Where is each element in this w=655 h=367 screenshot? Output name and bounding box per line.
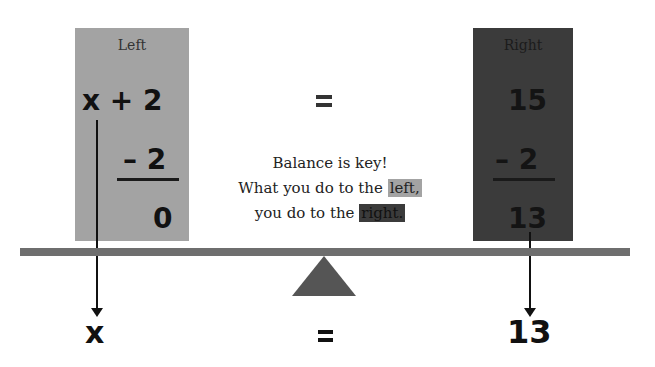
caption-line-3: you do to the right. [215, 201, 445, 226]
highlight-left: left, [388, 179, 422, 197]
balance-caption: Balance is key! What you do to the left,… [215, 151, 445, 226]
left-panel: Left x + 2 – 2 0 [75, 28, 189, 241]
middle-equals-bar-bottom [316, 103, 332, 107]
right-subtract: – 2 [495, 146, 538, 174]
right-sum-rule [493, 178, 555, 181]
left-arrow-line [96, 120, 98, 310]
solution-equals-bar-bottom [318, 338, 333, 342]
right-arrow-line [529, 232, 531, 310]
left-expression: x + 2 [82, 87, 163, 115]
right-panel-title: Right [473, 37, 573, 53]
solution-right: 13 [507, 316, 552, 348]
right-value: 15 [508, 87, 547, 115]
right-result: 13 [508, 205, 547, 233]
left-sum-rule [117, 178, 179, 181]
solution-equals-bar-top [318, 330, 333, 334]
middle-equals-bar-top [316, 95, 332, 99]
balance-beam [20, 248, 630, 256]
fulcrum-triangle-icon [292, 256, 356, 296]
caption-line-2: What you do to the left, [215, 176, 445, 201]
highlight-right: right. [359, 204, 405, 222]
left-panel-title: Left [75, 37, 189, 53]
left-result: 0 [153, 205, 172, 233]
solution-left: x [85, 318, 104, 348]
left-subtract: – 2 [123, 146, 166, 174]
caption-line-1: Balance is key! [215, 151, 445, 176]
right-panel: Right 15 – 2 13 [473, 28, 573, 241]
